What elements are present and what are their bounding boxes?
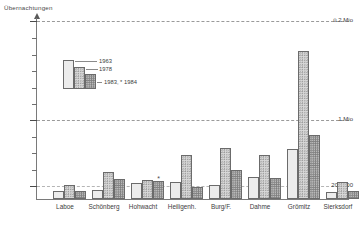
y-tick-minor	[32, 55, 37, 56]
bar-laboe-1978[interactable]	[64, 185, 75, 199]
bar-group-dahme	[248, 155, 281, 199]
y-tick-minor	[32, 137, 37, 138]
bar-dahme-1963[interactable]	[248, 177, 259, 199]
bar-laboe-1983[interactable]	[75, 191, 86, 199]
bar-heiligenhafen-1978[interactable]	[181, 155, 192, 199]
bar-burg-1963[interactable]	[209, 185, 220, 199]
bar-dahme-1983[interactable]	[270, 178, 281, 199]
legend-label-1983: 1983, * 1984	[104, 79, 137, 85]
bar-laboe-1963[interactable]	[53, 191, 64, 199]
y-label-1mio: 1 Mio	[319, 116, 353, 122]
asterisk-marker: *	[157, 175, 160, 182]
bar-burg-1983[interactable]	[231, 170, 242, 199]
bar-sierksdorf-1983[interactable]	[348, 191, 359, 199]
bar-burg-1978[interactable]	[220, 148, 231, 199]
legend-leader-1963	[75, 61, 97, 62]
bar-groemitz-1983[interactable]	[309, 135, 320, 199]
bar-group-groemitz	[287, 51, 320, 199]
y-tick-minor	[32, 38, 37, 39]
y-axis-title: Übernachtungen	[4, 4, 53, 11]
bar-group-schoenberg	[92, 172, 125, 199]
bar-sierksdorf-1978[interactable]	[337, 182, 348, 199]
bar-groemitz-1978[interactable]	[298, 51, 309, 199]
bar-schoenberg-1963[interactable]	[92, 190, 103, 199]
bar-sierksdorf-1963[interactable]	[326, 192, 337, 199]
y-tick-200k	[30, 186, 37, 187]
bar-dahme-1978[interactable]	[259, 155, 270, 199]
legend-label-1978: 1978	[99, 66, 112, 72]
y-tick-minor	[32, 71, 37, 72]
x-axis-line	[36, 199, 349, 200]
bar-heiligenhafen-1983[interactable]	[192, 187, 203, 199]
legend-swatch-1978	[74, 67, 85, 89]
bar-hohwacht-1978[interactable]	[142, 180, 153, 199]
y-label-2mio: ü 2 Mio	[319, 17, 353, 23]
gridline-2mio	[37, 21, 349, 22]
bar-group-laboe	[53, 185, 86, 199]
y-tick-1mio	[30, 120, 37, 121]
bar-group-sierksdorf	[326, 182, 359, 199]
legend-label-1963: 1963	[99, 58, 112, 64]
y-tick-minor	[32, 153, 37, 154]
y-axis-line	[36, 18, 37, 200]
legend-swatches	[63, 60, 96, 89]
bar-hohwacht-1963[interactable]	[131, 183, 142, 199]
bar-heiligenhafen-1963[interactable]	[170, 182, 181, 199]
y-tick-2mio	[30, 21, 37, 22]
bar-groemitz-1963[interactable]	[287, 149, 298, 199]
bar-group-heiligenhafen	[170, 155, 203, 199]
bar-group-burg	[209, 148, 242, 199]
bar-hohwacht-1983[interactable]: *	[153, 181, 164, 199]
legend-swatch-1983	[85, 74, 96, 89]
bar-schoenberg-1978[interactable]	[103, 172, 114, 199]
y-tick-minor	[32, 170, 37, 171]
legend-swatch-1963	[63, 60, 74, 89]
bar-schoenberg-1983[interactable]	[114, 179, 125, 199]
y-tick-minor	[32, 104, 37, 105]
category-label-sierksdorf: Sierksdorf	[313, 203, 363, 210]
y-tick-minor	[32, 88, 37, 89]
bar-group-hohwacht: *	[131, 180, 164, 199]
legend-leader-1978	[86, 69, 98, 70]
legend-leader-1983	[97, 82, 102, 83]
